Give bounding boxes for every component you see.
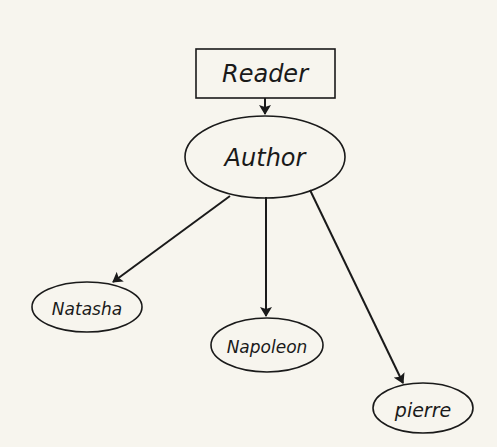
author-label: Author [223,144,308,172]
napoleon-label: Napoleon [227,337,308,357]
node-reader: Reader [196,49,335,98]
node-napoleon: Napoleon [211,318,323,372]
edge-author-to-natasha [113,196,230,282]
node-pierre: pierre [373,383,473,433]
node-author: Author [185,116,345,198]
diagram-canvas: Reader Author Natasha Napoleon pierre [0,0,497,447]
natasha-label: Natasha [52,299,122,319]
node-natasha: Natasha [32,282,142,332]
edge-author-to-pierre [310,190,403,383]
pierre-label: pierre [394,399,451,421]
reader-label: Reader [222,60,310,88]
